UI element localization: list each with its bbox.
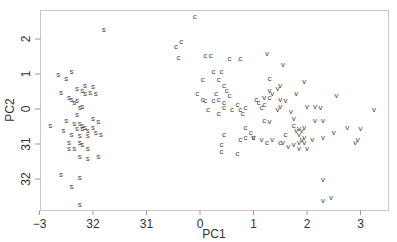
x-tick-label: 2 — [304, 217, 311, 231]
data-point-v: v — [321, 133, 325, 142]
data-point-c: c — [268, 74, 272, 83]
y-tick-label: 1 — [19, 70, 33, 77]
data-point-c: c — [222, 103, 226, 112]
x-tick-label: 32 — [86, 217, 100, 231]
data-point-v: v — [321, 196, 325, 205]
data-point-c: c — [179, 37, 183, 46]
data-points: ssssssssssssssssssssssssssssssssssssssss… — [48, 12, 376, 208]
data-point-v: v — [321, 116, 325, 125]
data-point-s: s — [78, 200, 82, 209]
data-point-s: s — [86, 154, 90, 163]
data-point-c: c — [177, 53, 181, 62]
data-point-v: v — [302, 123, 306, 132]
scatter-chart: −332310123 3231012 PC1 PC2 sssssssssssss… — [0, 0, 397, 242]
data-point-s: s — [86, 131, 90, 140]
data-point-s: s — [56, 70, 60, 79]
data-point-s: s — [78, 152, 82, 161]
data-point-c: c — [174, 42, 178, 51]
data-point-v: v — [318, 103, 322, 112]
data-point-v: v — [265, 49, 269, 58]
data-point-s: s — [78, 173, 82, 182]
data-point-c: c — [193, 12, 197, 21]
data-point-c: c — [201, 95, 205, 104]
data-point-c: c — [195, 89, 199, 98]
data-point-v: v — [313, 102, 317, 111]
data-point-c: c — [211, 96, 215, 105]
data-point-v: v — [329, 193, 333, 202]
data-point-v: v — [294, 89, 298, 98]
data-point-v: v — [268, 117, 272, 126]
data-point-c: c — [209, 51, 213, 60]
data-point-v: v — [292, 114, 296, 123]
data-point-v: v — [292, 140, 296, 149]
data-point-s: s — [70, 130, 74, 139]
data-point-c: c — [260, 103, 264, 112]
data-point-v: v — [284, 96, 288, 105]
data-point-v: v — [270, 135, 274, 144]
data-point-s: s — [94, 89, 98, 98]
data-point-s: s — [80, 121, 84, 130]
data-point-c: c — [203, 51, 207, 60]
data-point-v: v — [345, 123, 349, 132]
data-point-s: s — [75, 110, 79, 119]
x-tick-label: 1 — [250, 217, 257, 231]
y-axis: 3231012 — [19, 35, 41, 185]
data-point-c: c — [217, 95, 221, 104]
data-point-v: v — [260, 135, 264, 144]
data-point-s: s — [59, 88, 63, 97]
data-point-v: v — [353, 138, 357, 147]
data-point-c: c — [235, 149, 239, 158]
data-point-v: v — [305, 144, 309, 153]
data-point-v: v — [286, 142, 290, 151]
data-point-c: c — [265, 138, 269, 147]
data-point-s: s — [91, 114, 95, 123]
x-tick-label: 3 — [357, 217, 364, 231]
data-point-s: s — [67, 138, 71, 147]
data-point-c: c — [219, 67, 223, 76]
data-point-s: s — [80, 140, 84, 149]
data-point-v: v — [359, 124, 363, 133]
data-point-c: c — [206, 105, 210, 114]
data-point-v: v — [262, 93, 266, 102]
data-point-v: v — [332, 128, 336, 137]
data-point-s: s — [94, 128, 98, 137]
data-point-v: v — [310, 135, 314, 144]
data-point-s: s — [96, 117, 100, 126]
data-point-v: v — [297, 144, 301, 153]
data-point-c: c — [230, 105, 234, 114]
data-point-c: c — [227, 54, 231, 63]
data-point-s: s — [72, 144, 76, 153]
x-tick-label: 31 — [140, 217, 154, 231]
y-tick-label: 0 — [19, 105, 33, 112]
data-point-v: v — [302, 77, 306, 86]
data-point-c: c — [238, 135, 242, 144]
data-point-s: s — [96, 152, 100, 161]
data-point-c: c — [284, 130, 288, 139]
data-point-s: s — [62, 126, 66, 135]
data-point-v: v — [321, 175, 325, 184]
y-axis-label: PC2 — [3, 98, 17, 122]
data-point-c: c — [217, 109, 221, 118]
data-point-s: s — [75, 96, 79, 105]
data-point-s: s — [70, 182, 74, 191]
data-point-s: s — [75, 84, 79, 93]
data-point-s: s — [70, 67, 74, 76]
data-point-v: v — [281, 60, 285, 69]
data-point-v: v — [313, 116, 317, 125]
data-point-c: c — [262, 116, 266, 125]
data-point-c: c — [219, 147, 223, 156]
data-point-c: c — [243, 103, 247, 112]
plot-frame — [41, 11, 389, 211]
y-tick-label: 31 — [19, 137, 33, 151]
data-point-c: c — [227, 91, 231, 100]
y-tick-label: 32 — [19, 172, 33, 186]
data-point-v: v — [276, 84, 280, 93]
data-point-v: v — [270, 89, 274, 98]
x-tick-label: −3 — [33, 217, 47, 231]
data-point-s: s — [99, 130, 103, 139]
data-point-c: c — [201, 75, 205, 84]
data-point-v: v — [252, 133, 256, 142]
data-point-c: c — [217, 75, 221, 84]
x-axis: −332310123 — [33, 211, 365, 232]
data-point-s: s — [48, 121, 52, 130]
